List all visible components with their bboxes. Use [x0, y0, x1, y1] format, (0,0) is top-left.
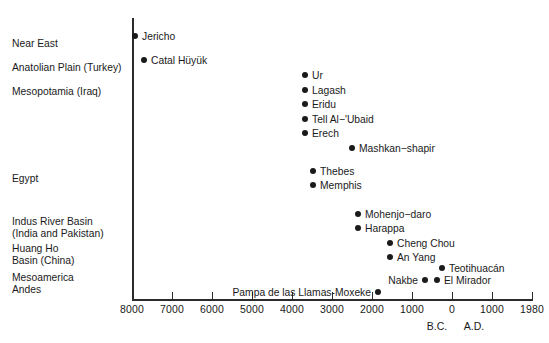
data-point [387, 240, 393, 246]
data-point [422, 277, 428, 283]
data-point [302, 87, 308, 93]
data-point [302, 116, 308, 122]
x-tick-label: 2000 [360, 303, 384, 315]
data-point-label: Lagash [312, 85, 346, 96]
data-point-label: Eridu [312, 99, 336, 110]
data-point-label: Jericho [142, 31, 175, 42]
data-point [434, 277, 440, 283]
data-point-label: Cheng Chou [397, 238, 455, 249]
x-tick [172, 292, 173, 300]
region-label: Anatolian Plain (Turkey) [12, 62, 122, 74]
x-tick-label: 1000 [480, 303, 504, 315]
data-point-label: Harappa [365, 223, 405, 234]
data-point [355, 225, 361, 231]
era-label: A.D. [464, 320, 484, 332]
data-point-label: Ur [312, 70, 323, 81]
data-point-label: Teotihuacán [449, 263, 505, 274]
data-point-label: An Yang [397, 252, 436, 263]
x-tick [492, 292, 493, 300]
x-tick-label: 4000 [280, 303, 304, 315]
region-label: Indus River Basin (India and Pakistan) [12, 216, 104, 241]
region-label: Huang Ho Basin (China) [12, 243, 74, 268]
x-tick-label: 0 [449, 303, 455, 315]
data-point [302, 130, 308, 136]
timeline-chart: 8000700060005000400030002000100001000198… [0, 0, 549, 343]
region-label: Egypt [12, 173, 38, 185]
data-point [141, 57, 147, 63]
x-tick-label: 7000 [160, 303, 184, 315]
data-point-label: Memphis [320, 180, 362, 191]
region-label: Mesoamerica Andes [12, 272, 74, 297]
x-tick [372, 292, 373, 300]
data-point [132, 33, 138, 39]
data-point-label: Erech [312, 128, 339, 139]
data-point [302, 101, 308, 107]
data-point-label: Catal Hüyük [151, 55, 207, 66]
data-point [349, 145, 355, 151]
x-tick-label: 1000 [400, 303, 424, 315]
x-tick-label: 3000 [320, 303, 344, 315]
data-point-label: Nakbe [388, 275, 418, 286]
region-label: Mesopotamia (Iraq) [12, 86, 101, 98]
vertical-axis-line [132, 18, 134, 300]
data-point-label: Thebes [320, 166, 354, 177]
data-point [310, 182, 316, 188]
x-tick [452, 292, 453, 300]
data-point [302, 72, 308, 78]
x-tick-label: 6000 [200, 303, 224, 315]
x-tick-label: 5000 [240, 303, 264, 315]
data-point [355, 211, 361, 217]
data-point [387, 254, 393, 260]
x-tick [212, 292, 213, 300]
data-point [439, 265, 445, 271]
data-point-label: Mohenjo−daro [365, 209, 431, 220]
data-point-label: Tell Al−'Ubaid [312, 114, 374, 125]
data-point-label: Mashkan−shapir [359, 143, 435, 154]
x-tick [412, 292, 413, 300]
era-label: B.C. [427, 320, 447, 332]
data-point-label: El Mirador [444, 275, 491, 286]
data-point [310, 168, 316, 174]
region-label: Near East [12, 38, 58, 50]
x-tick [132, 292, 133, 300]
x-tick [532, 292, 533, 300]
x-tick-label: 1980 [520, 303, 544, 315]
x-tick-label: 8000 [120, 303, 144, 315]
data-point-label: Pampa de las Llamas-Moxeke [232, 287, 371, 298]
data-point [375, 289, 381, 295]
